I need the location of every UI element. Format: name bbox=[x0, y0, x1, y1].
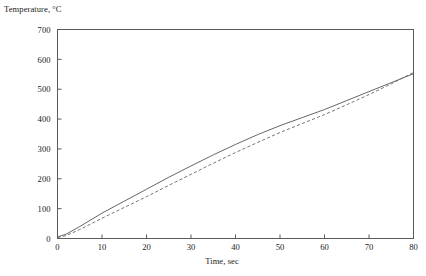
y-tick-label: 300 bbox=[38, 144, 51, 154]
x-tick-label: 20 bbox=[142, 242, 151, 252]
x-tick-label: 80 bbox=[409, 242, 418, 252]
y-tick-label: 500 bbox=[38, 84, 51, 94]
y-tick-label: 100 bbox=[38, 204, 51, 214]
x-tick-label: 70 bbox=[365, 242, 374, 252]
y-tick-label: 400 bbox=[38, 114, 51, 124]
series-line-dashed-curve bbox=[58, 72, 414, 237]
plot-frame bbox=[58, 30, 414, 239]
y-tick-label: 0 bbox=[46, 234, 50, 244]
plot-canvas: 0100200300400500600700 01020304050607080 bbox=[0, 0, 426, 276]
x-axis-ticks: 01020304050607080 bbox=[55, 235, 417, 253]
y-tick-label: 700 bbox=[38, 25, 51, 35]
x-axis-label-container: Time, sec bbox=[0, 256, 426, 266]
x-tick-label: 50 bbox=[276, 242, 285, 252]
chart-figure: Temperature, °C 0100200300400500600700 0… bbox=[0, 0, 426, 276]
x-tick-label: 40 bbox=[231, 242, 240, 252]
data-series-group bbox=[58, 72, 414, 237]
series-line-solid-curve bbox=[58, 74, 414, 237]
x-tick-label: 30 bbox=[187, 242, 196, 252]
x-tick-label: 0 bbox=[55, 242, 59, 252]
x-tick-label: 10 bbox=[98, 242, 107, 252]
y-tick-label: 600 bbox=[38, 55, 51, 65]
y-tick-label: 200 bbox=[38, 174, 51, 184]
x-axis-label: Time, sec bbox=[205, 256, 239, 266]
x-tick-label: 60 bbox=[320, 242, 329, 252]
